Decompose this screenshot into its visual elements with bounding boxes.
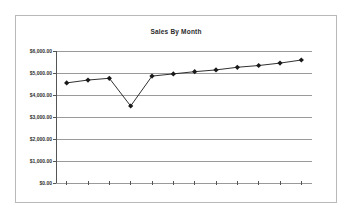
data-point-marker (171, 71, 176, 76)
chart-frame: Sales By Month $6,000.00 $5,000.00 $4,00… (15, 15, 337, 203)
plot-area: $6,000.00 $5,000.00 $4,000.00 $3,000.00 … (16, 16, 338, 204)
data-point-marker (299, 57, 304, 62)
data-point-marker (235, 65, 240, 70)
data-point-marker (85, 77, 90, 82)
data-point-marker (277, 61, 282, 66)
axis-lines (53, 51, 56, 183)
chart-canvas (16, 16, 338, 204)
series-line (67, 60, 302, 106)
data-point-marker (213, 67, 218, 72)
data-line (67, 60, 302, 106)
gridlines (56, 51, 312, 183)
data-point-marker (64, 80, 69, 85)
data-point-marker (256, 63, 261, 68)
series-markers (64, 57, 304, 108)
